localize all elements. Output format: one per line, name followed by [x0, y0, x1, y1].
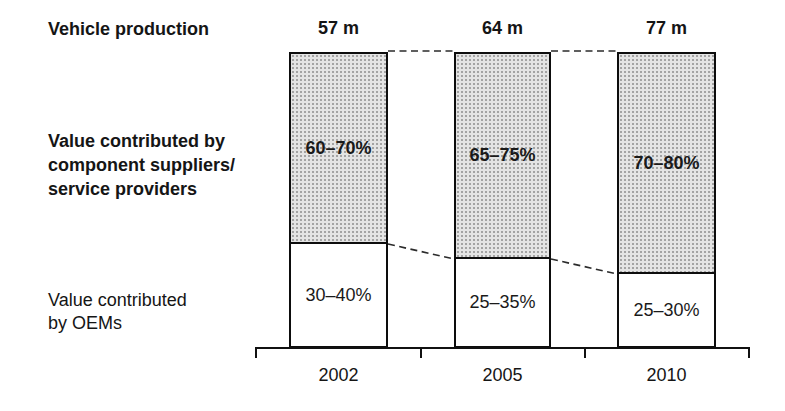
oems-series-label: Value contributed by OEMs: [48, 289, 187, 335]
production-value-2010: 77 m: [617, 18, 716, 39]
suppliers-segment-2010: 70–80%: [619, 54, 714, 274]
bar-2005: 65–75% 25–35%: [454, 52, 551, 348]
oems-segment-2005: 25–35%: [456, 259, 549, 346]
vehicle-production-label: Vehicle production: [48, 18, 209, 41]
oems-share-2005: 25–35%: [469, 292, 535, 313]
suppliers-share-2002: 60–70%: [305, 138, 371, 159]
oems-share-2002: 30–40%: [305, 285, 371, 306]
x-axis-tick-mid1: [420, 347, 422, 358]
oems-segment-2002: 30–40%: [291, 244, 386, 346]
suppliers-series-label: Value contributed by component suppliers…: [48, 129, 235, 201]
suppliers-share-2005: 65–75%: [469, 145, 535, 166]
x-axis: [255, 347, 750, 349]
suppliers-segment-2005: 65–75%: [456, 54, 549, 259]
year-label-2005: 2005: [454, 365, 551, 386]
oems-share-2010: 25–30%: [633, 300, 699, 321]
bar-2002: 60–70% 30–40%: [289, 52, 388, 348]
bar-2010: 70–80% 25–30%: [617, 52, 716, 348]
x-axis-tick-left: [255, 347, 257, 358]
x-axis-tick-right: [748, 347, 750, 358]
suppliers-share-2010: 70–80%: [633, 153, 699, 174]
production-value-2002: 57 m: [289, 18, 388, 39]
chart-canvas: Vehicle production Value contributed by …: [0, 0, 785, 411]
oems-segment-2010: 25–30%: [619, 274, 714, 346]
year-label-2010: 2010: [617, 365, 716, 386]
x-axis-tick-mid2: [584, 347, 586, 358]
suppliers-segment-2002: 60–70%: [291, 54, 386, 244]
year-label-2002: 2002: [289, 365, 388, 386]
production-value-2005: 64 m: [454, 18, 551, 39]
